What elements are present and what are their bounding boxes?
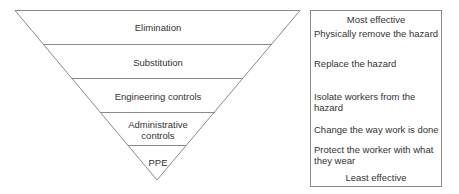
description-ppe-line2: they wear	[314, 155, 439, 166]
level-administrative-controls: Administrative controls	[0, 119, 316, 141]
description-administrative: Change the way work is done	[314, 124, 439, 135]
most-effective-label: Most effective	[311, 14, 441, 25]
description-elimination: Physically remove the hazard	[314, 28, 439, 39]
description-engineering: Isolate workers from the hazard	[314, 91, 439, 113]
level-administrative-line1: Administrative	[0, 119, 316, 130]
description-ppe: Protect the worker with what they wear	[314, 144, 439, 166]
level-ppe: PPE	[0, 157, 316, 168]
description-substitution: Replace the hazard	[314, 58, 439, 69]
least-effective-label: Least effective	[311, 172, 441, 183]
level-elimination: Elimination	[0, 22, 316, 33]
description-ppe-line1: Protect the worker with what	[314, 144, 439, 155]
level-substitution: Substitution	[0, 57, 316, 68]
level-engineering-controls: Engineering controls	[0, 91, 316, 102]
effectiveness-panel: Most effective Physically remove the haz…	[310, 10, 442, 187]
level-administrative-line2: controls	[0, 130, 316, 141]
